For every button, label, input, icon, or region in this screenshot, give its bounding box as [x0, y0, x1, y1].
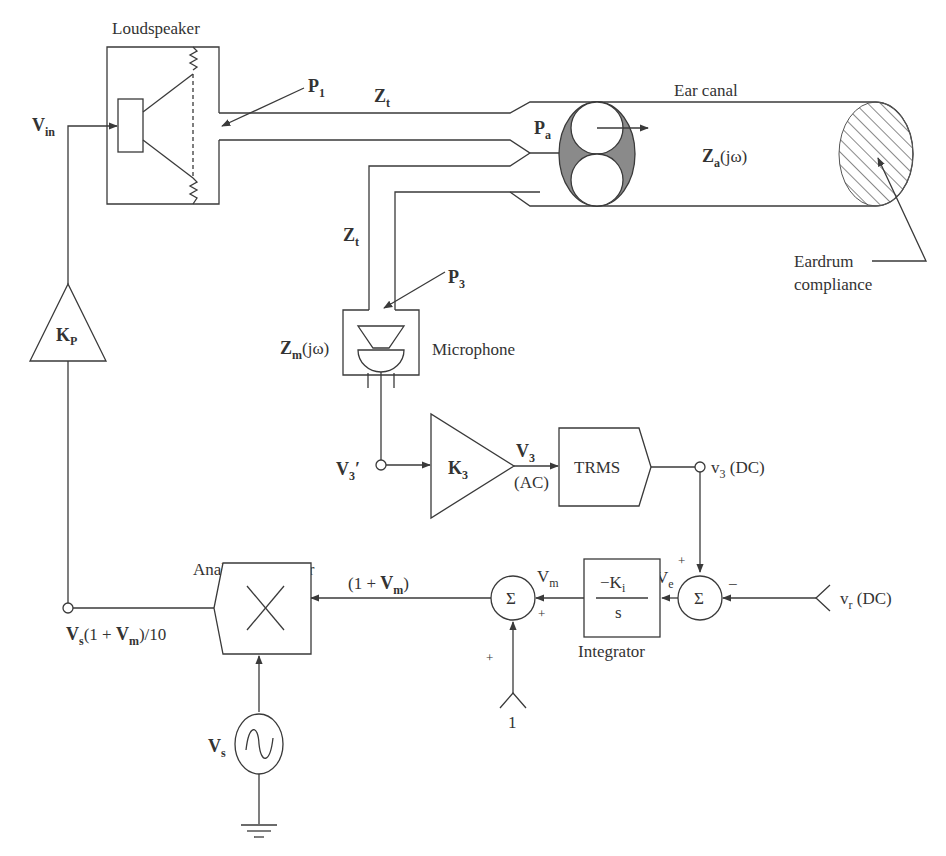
summer2-label: Σ	[694, 589, 704, 608]
v3-dc-label: v3 (DC)	[711, 458, 765, 481]
zt-side-label: Zt	[343, 225, 359, 249]
loudspeaker-box	[107, 47, 219, 204]
v3prime-label: V3′	[336, 459, 360, 483]
p3-label: P3	[448, 267, 465, 291]
ear-canal: Ear canal Pa Za(jω)	[534, 81, 913, 206]
integrator-label: Integrator	[578, 642, 645, 661]
eardrum-label-1: Eardrum	[794, 252, 853, 271]
eardrum-label-2: compliance	[794, 275, 872, 294]
vm-label: Vm	[537, 567, 559, 590]
ac-note: (AC)	[514, 473, 549, 492]
output-node	[63, 603, 73, 613]
tube-side-inner	[395, 192, 540, 310]
spring-top-icon	[190, 47, 197, 70]
trms-label: TRMS	[574, 458, 620, 477]
p3-pointer	[384, 272, 445, 308]
sum1-plus-right: +	[538, 606, 545, 621]
eardrum-hatch	[839, 102, 913, 206]
zt-top-label: Zt	[374, 86, 390, 110]
summer1-label: Σ	[506, 589, 516, 608]
kp-amplifier	[30, 284, 106, 361]
microphone: Microphone Zm(jω) P3	[280, 267, 515, 388]
ground-icon	[241, 825, 277, 837]
vr-input-icon	[816, 585, 830, 611]
p1-pointer	[222, 88, 304, 126]
vin-wire	[68, 126, 117, 284]
vs-out-label: Vs(1 + Vm)/10	[66, 624, 166, 648]
v3-ac-label: V3	[516, 441, 535, 465]
vs-label: Vs	[208, 736, 226, 760]
v3-dc-node	[695, 462, 705, 472]
sum2-plus: +	[678, 553, 685, 568]
pa-label: Pa	[534, 118, 551, 142]
block-diagram: Loudspeaker Vin Zt P1 Zt Ear canal Pa Za…	[0, 0, 946, 856]
integrator-den: s	[615, 603, 622, 622]
vr-dc-label: vr (DC)	[840, 589, 892, 612]
loudspeaker: Loudspeaker	[107, 19, 219, 204]
spring-bottom-icon	[190, 178, 197, 204]
zm-label: Zm(jω)	[280, 338, 329, 362]
multiplier-block	[214, 563, 311, 654]
v3prime-node	[376, 460, 386, 470]
microphone-label: Microphone	[432, 340, 515, 359]
za-label: Za(jω)	[702, 146, 747, 170]
mic-body-icon	[358, 350, 404, 372]
mic-cone-icon	[358, 326, 404, 348]
ear-canal-label: Ear canal	[674, 81, 738, 100]
const-one-label: 1	[508, 713, 517, 732]
sum2-minus: −	[728, 575, 738, 594]
one-plus-vm-label: (1 + Vm)	[348, 573, 409, 597]
const-input-icon	[500, 693, 526, 708]
voice-coil	[118, 99, 143, 152]
p1-label: P1	[308, 76, 325, 100]
tube-top-lower	[219, 140, 560, 153]
k3-amplifier	[431, 414, 514, 518]
vin-label: Vin	[32, 115, 55, 139]
loudspeaker-label: Loudspeaker	[112, 19, 200, 38]
sum1-plus-bottom: +	[486, 650, 493, 665]
